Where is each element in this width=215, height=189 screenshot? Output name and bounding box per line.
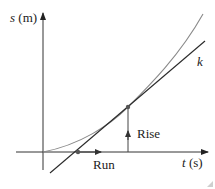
x-axis-label: t (s) <box>182 156 203 169</box>
tangent-label: k <box>197 55 203 68</box>
rise-label: Rise <box>137 127 160 140</box>
x-intercept-point <box>76 150 80 154</box>
position-curve <box>43 14 203 152</box>
run-label: Run <box>93 158 115 171</box>
y-axis-unit: (m) <box>18 10 37 25</box>
x-axis-var: t <box>182 155 186 170</box>
secant-tangent-diagram: s (m) t (s) k Run Rise <box>0 0 215 189</box>
y-axis-var: s <box>10 10 15 25</box>
x-axis-unit: (s) <box>189 155 203 170</box>
tangent-point <box>126 105 130 109</box>
y-axis-label: s (m) <box>10 11 37 24</box>
corner-mark <box>207 181 213 187</box>
